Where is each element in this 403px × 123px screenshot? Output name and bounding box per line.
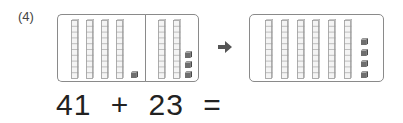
ten-rod-icon — [265, 19, 273, 79]
one-cube-icon — [361, 49, 368, 56]
ten-rod-icon — [86, 19, 94, 79]
one-cube-icon — [131, 71, 138, 78]
ten-rod-icon — [281, 19, 289, 79]
plus-sign: + — [111, 88, 130, 121]
ten-rod-icon — [297, 19, 305, 79]
one-cube-icon — [361, 38, 368, 45]
one-cube-icon — [185, 51, 192, 58]
addend-b: 23 — [149, 88, 184, 121]
equals-sign: = — [203, 88, 222, 121]
problem-label: (4) — [18, 9, 34, 24]
addend-a: 41 — [56, 88, 91, 121]
ten-rod-icon — [344, 19, 352, 79]
one-cube-icon — [361, 60, 368, 67]
ten-rod-icon — [173, 19, 181, 79]
equation: 41 + 23 = — [56, 88, 232, 122]
ten-rod-icon — [158, 19, 166, 79]
one-cube-icon — [185, 71, 192, 78]
ten-rod-icon — [116, 19, 124, 79]
ten-rod-icon — [101, 19, 109, 79]
arrow-icon — [218, 41, 232, 53]
ten-rod-icon — [328, 19, 336, 79]
ten-rod-icon — [71, 19, 79, 79]
one-cube-icon — [361, 71, 368, 78]
one-cube-icon — [185, 61, 192, 68]
ten-rod-icon — [312, 19, 320, 79]
